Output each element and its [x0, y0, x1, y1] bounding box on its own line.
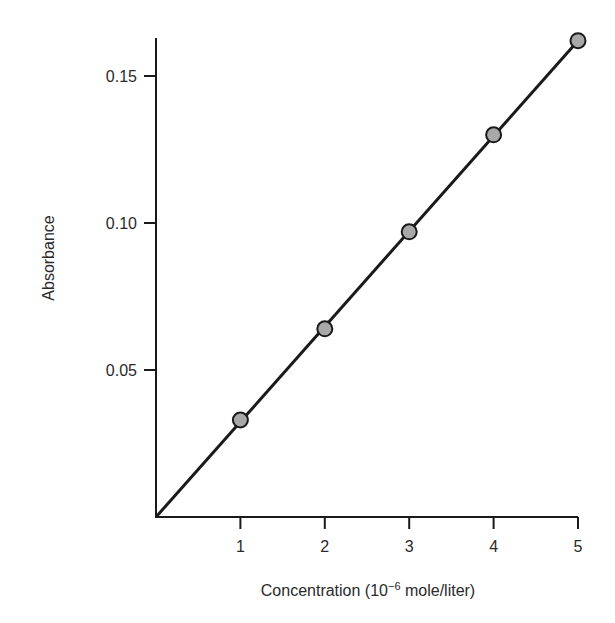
fit-line — [156, 41, 578, 517]
y-ticks: 0.050.100.15 — [106, 68, 156, 379]
x-axis-label: Concentration (10−6 mole/liter) — [261, 580, 475, 599]
y-tick-label: 0.05 — [106, 362, 137, 379]
y-tick-label: 0.10 — [106, 215, 137, 232]
y-tick-label: 0.15 — [106, 68, 137, 85]
chart-canvas: 0.050.100.15 12345 Absorbance Concentrat… — [0, 0, 615, 623]
x-tick-label: 4 — [489, 538, 498, 555]
x-tick-label: 5 — [574, 538, 583, 555]
x-tick-label: 2 — [320, 538, 329, 555]
x-ticks: 12345 — [236, 517, 583, 555]
x-tick-label: 3 — [405, 538, 414, 555]
x-tick-label: 1 — [236, 538, 245, 555]
data-point-marker — [486, 127, 501, 142]
data-point-marker — [233, 412, 248, 427]
y-axis-label: Absorbance — [40, 215, 57, 300]
data-point-marker — [571, 33, 586, 48]
data-point-marker — [317, 321, 332, 336]
data-point-marker — [402, 224, 417, 239]
